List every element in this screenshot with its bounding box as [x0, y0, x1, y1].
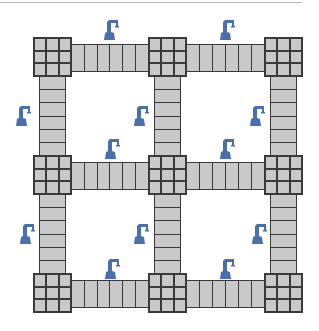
node-cell	[46, 156, 58, 169]
bridge-segment	[40, 208, 65, 221]
bridge-segment	[40, 90, 65, 103]
node-cell	[174, 38, 186, 51]
node-cell	[174, 274, 186, 287]
bridge-segment	[200, 281, 213, 307]
node-cell	[161, 299, 173, 312]
node-cell	[290, 63, 302, 76]
node-cell	[174, 169, 186, 182]
node-cell	[149, 181, 161, 194]
node-cell	[265, 181, 277, 194]
bridge-segment	[155, 235, 180, 248]
node-cell	[149, 51, 161, 64]
node-cell	[34, 287, 46, 300]
bridge-segment	[40, 77, 65, 90]
bridge-segment	[110, 281, 123, 307]
robot-arm-icon	[104, 257, 122, 279]
node-cell	[277, 63, 289, 76]
bridge-segment	[271, 143, 296, 155]
bridge-segment	[200, 45, 213, 71]
node-cell	[277, 156, 289, 169]
bridge-segment	[271, 77, 296, 90]
bridge-segment	[271, 103, 296, 116]
bridge-segment	[155, 221, 180, 234]
bridge-segment	[40, 248, 65, 261]
bridge-segment	[239, 163, 252, 189]
node-cell	[34, 38, 46, 51]
node-cell	[277, 274, 289, 287]
bridge-segment	[271, 208, 296, 221]
vertical-bridge	[154, 194, 181, 274]
bridge-segment	[213, 281, 226, 307]
node-cell	[277, 38, 289, 51]
bridge-segment	[40, 235, 65, 248]
bridge-segment	[271, 235, 296, 248]
node-cell	[290, 287, 302, 300]
vertical-bridge	[270, 194, 297, 274]
bridge-segment	[40, 221, 65, 234]
bridge-segment	[136, 45, 148, 71]
node-cell	[265, 51, 277, 64]
bridge-segment	[110, 45, 123, 71]
robot-arm-icon	[103, 18, 121, 40]
grid-node	[264, 273, 303, 313]
bridge-segment	[40, 117, 65, 130]
bridge-segment	[123, 163, 136, 189]
node-cell	[46, 51, 58, 64]
node-cell	[290, 169, 302, 182]
node-cell	[34, 169, 46, 182]
node-cell	[59, 299, 71, 312]
node-cell	[161, 51, 173, 64]
robot-arm-icon	[251, 222, 269, 244]
node-cell	[46, 287, 58, 300]
bridge-segment	[239, 45, 252, 71]
grid-node	[148, 273, 187, 313]
bridge-segment	[40, 143, 65, 155]
bridge-segment	[252, 163, 264, 189]
horizontal-bridge	[71, 280, 149, 308]
bridge-segment	[155, 261, 180, 273]
node-cell	[161, 156, 173, 169]
bridge-segment	[155, 143, 180, 155]
bridge-segment	[271, 261, 296, 273]
vertical-bridge	[39, 76, 66, 156]
node-cell	[161, 63, 173, 76]
node-cell	[149, 63, 161, 76]
robot-arm-icon	[19, 222, 37, 244]
node-cell	[161, 274, 173, 287]
node-cell	[161, 169, 173, 182]
node-cell	[277, 299, 289, 312]
bridge-segment	[200, 163, 213, 189]
node-cell	[149, 287, 161, 300]
bridge-segment	[123, 45, 136, 71]
grid-node	[33, 37, 72, 77]
node-cell	[174, 181, 186, 194]
bridge-segment	[226, 45, 239, 71]
bridge-segment	[98, 45, 111, 71]
bridge-segment	[40, 261, 65, 273]
node-cell	[149, 156, 161, 169]
node-cell	[174, 156, 186, 169]
node-cell	[290, 299, 302, 312]
bridge-segment	[98, 163, 111, 189]
bridge-segment	[271, 195, 296, 208]
bridge-segment	[155, 130, 180, 143]
bridge-segment	[40, 103, 65, 116]
bridge-segment	[155, 90, 180, 103]
node-cell	[34, 181, 46, 194]
bridge-segment	[187, 281, 200, 307]
node-cell	[46, 274, 58, 287]
horizontal-bridge	[71, 44, 149, 72]
robot-arm-icon	[15, 104, 33, 126]
node-cell	[46, 63, 58, 76]
node-cell	[277, 169, 289, 182]
bridge-segment	[136, 281, 148, 307]
node-cell	[277, 287, 289, 300]
robot-arm-icon	[219, 137, 237, 159]
bridge-segment	[136, 163, 148, 189]
node-cell	[46, 169, 58, 182]
vertical-bridge	[39, 194, 66, 274]
robot-arm-icon	[104, 137, 122, 159]
bridge-segment	[155, 117, 180, 130]
node-cell	[265, 156, 277, 169]
bridge-segment	[252, 45, 264, 71]
